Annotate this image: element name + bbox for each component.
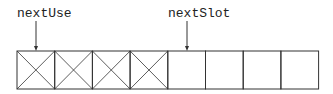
arrow-head-icon [34,46,38,51]
array-diagram [0,0,333,94]
arrow-head-icon [185,46,189,51]
array-cell [243,51,281,89]
array-cell [168,51,206,89]
array-cell [206,51,244,89]
array-cell [281,51,319,89]
